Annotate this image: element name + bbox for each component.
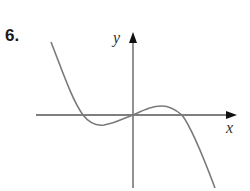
y-axis-arrow-icon — [129, 32, 137, 43]
x-axis-arrow-icon — [226, 111, 237, 119]
function-graph — [0, 0, 250, 191]
